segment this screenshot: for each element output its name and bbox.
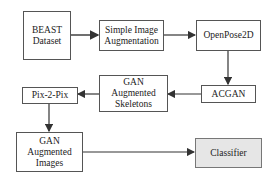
node-label: BEAST Dataset	[26, 25, 68, 47]
node-label: ACGAN	[212, 89, 246, 100]
node-simple-image-augmentation: Simple Image Augmentation	[99, 20, 164, 51]
node-label: Simple Image Augmentation	[102, 25, 161, 47]
node-label: OpenPose2D	[203, 30, 253, 41]
node-label: Pix-2-Pix	[32, 90, 68, 101]
node-pix2pix: Pix-2-Pix	[22, 87, 78, 104]
node-beast-dataset: BEAST Dataset	[23, 11, 71, 60]
node-gan-augmented-skeletons: GAN Augmented Skeletons	[99, 75, 168, 112]
node-openpose2d: OpenPose2D	[196, 20, 261, 51]
node-label: Classifier	[210, 148, 246, 159]
node-acgan: ACGAN	[201, 85, 256, 103]
node-classifier: Classifier	[195, 138, 262, 168]
node-label: GAN Augmented Skeletons	[102, 77, 165, 110]
node-gan-augmented-images: GAN Augmented Images	[16, 132, 83, 172]
node-label: GAN Augmented Images	[19, 136, 80, 169]
